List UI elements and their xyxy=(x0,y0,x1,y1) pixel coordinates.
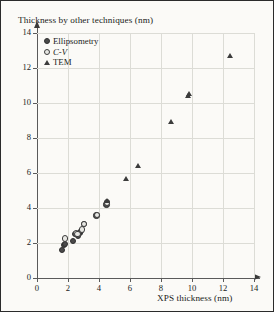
y-tick-label: 14 xyxy=(22,27,31,37)
data-point-tem xyxy=(186,91,192,96)
y-tick-label: 2 xyxy=(27,237,31,247)
x-tick-mark xyxy=(130,278,131,282)
gridline-horizontal xyxy=(37,33,254,34)
y-tick-mark xyxy=(33,243,37,244)
data-point-tem xyxy=(104,198,110,203)
circle-open-icon xyxy=(44,49,50,55)
legend-marker-triangle-icon xyxy=(44,60,53,65)
gridline-vertical xyxy=(254,33,255,278)
x-tick-label: 8 xyxy=(151,283,171,293)
x-tick-mark xyxy=(254,278,255,282)
x-tick-label: 6 xyxy=(120,283,140,293)
x-tick: 10 xyxy=(192,278,193,282)
y-tick-mark xyxy=(33,173,37,174)
y-tick-mark xyxy=(33,33,37,34)
gridline-horizontal xyxy=(37,103,254,104)
gridline-vertical xyxy=(68,33,69,278)
x-tick-mark xyxy=(99,278,100,282)
data-point-tem xyxy=(168,119,174,124)
y-tick-label: 12 xyxy=(22,62,31,72)
x-tick: 6 xyxy=(130,278,131,282)
gridline-vertical xyxy=(192,33,193,278)
x-tick: 2 xyxy=(68,278,69,282)
y-tick-label: 4 xyxy=(27,202,31,212)
gridline-vertical xyxy=(130,33,131,278)
x-tick: 12 xyxy=(223,278,224,282)
y-tick: 12 xyxy=(23,68,37,69)
y-tick: 4 xyxy=(23,208,37,209)
data-point-ellipsometry xyxy=(70,238,76,244)
legend-label: C-V xyxy=(53,47,67,57)
y-tick-mark xyxy=(33,138,37,139)
y-tick-label: 6 xyxy=(27,167,31,177)
y-tick-mark xyxy=(33,103,37,104)
circle-filled-icon xyxy=(44,38,50,44)
gridline-vertical xyxy=(99,33,100,278)
x-tick-label: 4 xyxy=(89,283,109,293)
x-tick: 4 xyxy=(99,278,100,282)
legend-item-c-v: C-V xyxy=(44,47,98,58)
y-tick: 0 xyxy=(23,278,37,279)
x-tick-mark xyxy=(192,278,193,282)
data-point-tem xyxy=(227,53,233,58)
chart-page: Thickness by other techniques (nm) 02468… xyxy=(0,0,274,312)
y-tick: 10 xyxy=(23,103,37,104)
x-tick-mark xyxy=(37,278,38,282)
y-axis-arrow-icon xyxy=(34,21,40,28)
gridline-vertical xyxy=(161,33,162,278)
x-tick: 0 xyxy=(37,278,38,282)
y-tick-mark xyxy=(33,208,37,209)
legend-label: TEM xyxy=(53,57,72,67)
x-tick-mark xyxy=(223,278,224,282)
x-tick-mark xyxy=(161,278,162,282)
data-point-c-v xyxy=(79,226,85,232)
x-tick-label: 2 xyxy=(58,283,78,293)
gridline-vertical xyxy=(223,33,224,278)
y-tick: 2 xyxy=(23,243,37,244)
x-tick-mark xyxy=(68,278,69,282)
legend-marker-circle-filled-icon xyxy=(44,38,53,44)
legend: EllipsometryC-VTEM xyxy=(44,36,98,68)
x-tick-label: 12 xyxy=(213,283,233,293)
legend-label: Ellipsometry xyxy=(53,36,98,46)
y-tick-label: 8 xyxy=(27,132,31,142)
gridline-horizontal xyxy=(37,208,254,209)
gridline-horizontal xyxy=(37,138,254,139)
x-tick-label: 14 xyxy=(244,283,264,293)
x-tick-label: 0 xyxy=(27,283,47,293)
triangle-icon xyxy=(44,60,50,65)
y-tick: 14 xyxy=(23,33,37,34)
data-point-tem xyxy=(135,163,141,168)
legend-item-ellipsometry: Ellipsometry xyxy=(44,36,98,47)
x-tick: 14 xyxy=(254,278,255,282)
data-point-tem xyxy=(123,176,129,181)
legend-item-tem: TEM xyxy=(44,57,98,68)
x-axis-arrow-icon xyxy=(254,274,261,280)
legend-marker-circle-open-icon xyxy=(44,49,53,55)
gridline-horizontal xyxy=(37,173,254,174)
x-tick: 8 xyxy=(161,278,162,282)
gridline-horizontal xyxy=(37,68,254,69)
y-tick: 8 xyxy=(23,138,37,139)
x-tick-label: 10 xyxy=(182,283,202,293)
gridline-horizontal xyxy=(37,243,254,244)
y-tick: 6 xyxy=(23,173,37,174)
plot-area xyxy=(37,33,254,278)
x-axis-caption: XPS thickness (nm) xyxy=(157,293,232,303)
y-tick-label: 0 xyxy=(27,272,31,282)
y-tick-label: 10 xyxy=(22,97,31,107)
y-tick-mark xyxy=(33,68,37,69)
